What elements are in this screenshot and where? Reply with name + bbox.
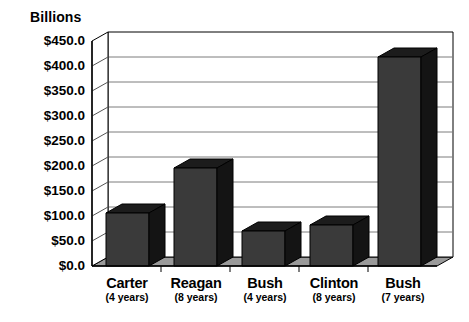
bar-bush-4yr bbox=[242, 222, 301, 266]
x-category-bush-7yr: Bush (7 years) bbox=[355, 276, 451, 303]
y-tick-label-350: $350.0 bbox=[0, 83, 85, 98]
bar-carter bbox=[106, 204, 165, 266]
y-tick-label-50: $50.0 bbox=[0, 233, 85, 248]
bar-reagan bbox=[174, 159, 233, 266]
y-tick-label-450: $450.0 bbox=[0, 33, 85, 48]
y-tick-label-250: $250.0 bbox=[0, 133, 85, 148]
bar-clinton bbox=[310, 216, 369, 266]
bar-bush-7yr bbox=[378, 48, 437, 266]
bar-chart: Billions bbox=[0, 0, 469, 322]
x-category-bush-7yr-years: (7 years) bbox=[355, 292, 451, 303]
y-tick-label-400: $400.0 bbox=[0, 58, 85, 73]
plot-area: $450.0 $400.0 $350.0 $300.0 $250.0 $200.… bbox=[0, 0, 469, 322]
y-tick-label-300: $300.0 bbox=[0, 108, 85, 123]
x-axis-ticks bbox=[161, 266, 368, 272]
y-tick-label-0: $0.0 bbox=[0, 258, 85, 273]
y-tick-label-150: $150.0 bbox=[0, 183, 85, 198]
y-tick-label-200: $200.0 bbox=[0, 158, 85, 173]
x-category-bush-7yr-name: Bush bbox=[355, 276, 451, 291]
y-tick-label-100: $100.0 bbox=[0, 208, 85, 223]
